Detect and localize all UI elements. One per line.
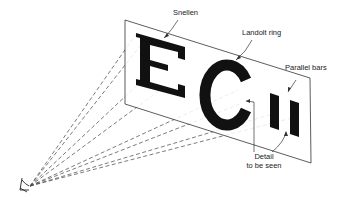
label-landolt-ring: Landolt ring bbox=[242, 29, 281, 38]
label-parallel-bars: Parallel bars bbox=[285, 64, 327, 73]
eye-icon bbox=[20, 178, 29, 192]
label-detail-line2: to be seen bbox=[246, 161, 281, 170]
visual-acuity-diagram bbox=[0, 0, 346, 204]
label-detail-to-be-seen: Detail to be seen bbox=[244, 153, 284, 170]
label-snellen: Snellen bbox=[173, 9, 198, 18]
